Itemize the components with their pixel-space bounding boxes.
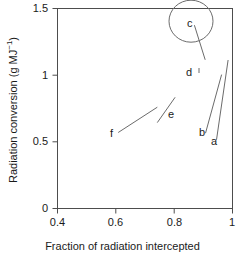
y-tick-label-0-5: 0.5 [20, 135, 48, 147]
series-f-line [118, 107, 157, 132]
series-label-e: e [168, 108, 174, 120]
x-axis-ticks [58, 209, 233, 214]
series-label-c: c [187, 17, 193, 29]
series-label-b: b [199, 126, 205, 138]
y-tick-label-0: 0 [20, 202, 48, 214]
y-axis-ticks [53, 9, 58, 209]
x-tick-label-0-8: 0.8 [160, 216, 189, 228]
plot-frame [58, 9, 233, 209]
x-tick-label-1: 1 [222, 216, 242, 228]
y-axis-title-exponent: −1 [5, 41, 14, 50]
radiation-conversion-chart: 1.5 1 0.5 0 0.4 0.6 0.8 1 c d b a e f Fr… [0, 0, 245, 265]
series-label-f: f [110, 127, 113, 139]
y-axis-title: Radiation conversion (g MJ−1) [7, 5, 19, 215]
series-label-a: a [211, 135, 217, 147]
series-label-d: d [186, 66, 192, 78]
series-a-line [217, 60, 229, 140]
series-d-line [194, 25, 205, 60]
y-axis-title-main: Radiation conversion (g MJ [7, 50, 19, 183]
y-axis-title-tail: ) [7, 37, 19, 41]
x-tick-label-0-4: 0.4 [43, 216, 72, 228]
y-tick-label-1: 1 [20, 69, 48, 81]
x-tick-label-0-6: 0.6 [101, 216, 130, 228]
x-axis-title: Fraction of radiation intercepted [0, 240, 245, 252]
y-tick-label-1-5: 1.5 [20, 2, 48, 14]
